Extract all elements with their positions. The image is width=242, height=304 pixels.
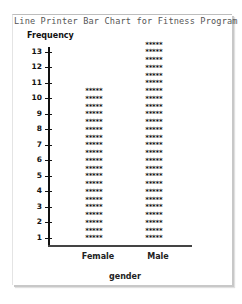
y-tick-label: 3	[20, 203, 42, 211]
x-axis-line	[48, 245, 192, 247]
y-axis-line	[48, 47, 50, 245]
y-tick-label: 4	[20, 187, 42, 195]
y-tick-label: 8	[20, 125, 42, 133]
y-tick	[45, 114, 52, 115]
y-tick-label: 6	[20, 156, 42, 164]
category-label-male: Male	[133, 252, 183, 261]
y-tick-label: 1	[20, 234, 42, 242]
y-tick-label: 13	[20, 48, 42, 56]
y-tick	[45, 83, 52, 84]
bar-female: ****************************************…	[85, 88, 111, 243]
y-tick-label: 2	[20, 218, 42, 226]
y-axis-label: Frequency	[27, 31, 74, 40]
y-tick	[45, 222, 52, 223]
y-tick-label: 11	[20, 79, 42, 87]
y-tick	[45, 129, 52, 130]
y-tick	[45, 52, 52, 53]
category-label-female: Female	[73, 252, 123, 261]
y-tick	[45, 176, 52, 177]
y-tick-label: 5	[20, 172, 42, 180]
y-tick-label: 10	[20, 94, 42, 102]
y-tick	[45, 67, 52, 68]
y-tick-label: 12	[20, 63, 42, 71]
y-tick	[45, 207, 52, 208]
y-tick-label: 9	[20, 110, 42, 118]
bar-male: ****************************************…	[145, 42, 171, 244]
y-tick	[45, 160, 52, 161]
y-tick-label: 7	[20, 141, 42, 149]
y-tick	[45, 145, 52, 146]
y-tick	[45, 98, 52, 99]
x-axis-label: gender	[100, 272, 150, 281]
y-tick	[45, 191, 52, 192]
chart-title: Line Printer Bar Chart for Fitness Progr…	[14, 16, 240, 26]
y-tick	[45, 238, 52, 239]
